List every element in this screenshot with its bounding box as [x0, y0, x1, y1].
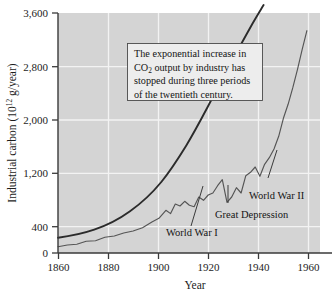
- y-tick-label-400: 400: [32, 221, 49, 233]
- x-axis-title: Year: [184, 279, 205, 291]
- callout-line-4: of the twentieth century.: [134, 89, 233, 100]
- x-tick-label-1880: 1880: [98, 261, 121, 273]
- x-tick-label-1960: 1960: [298, 261, 321, 273]
- chart-figure: 0 400 1,200 2,000 2,800 3,600 1860 1880 …: [0, 0, 335, 293]
- y-axis-ticks: [52, 13, 58, 253]
- x-tick-label-1900: 1900: [148, 261, 171, 273]
- y-axis-title: Industrial carbon (1012 g/year): [5, 63, 19, 202]
- x-tick-label-1860: 1860: [48, 261, 71, 273]
- x-tick-label-1940: 1940: [248, 261, 271, 273]
- svg-text:Industrial carbon (1012 g/year: Industrial carbon (1012 g/year): [5, 63, 19, 202]
- y-tick-label-0: 0: [43, 247, 49, 259]
- y-tick-label-3600: 3,600: [23, 7, 48, 19]
- callout-line-3: stopped during three periods: [134, 75, 250, 86]
- y-tick-label-2000: 2,000: [23, 114, 48, 126]
- callout-line-1: The exponential increase in: [134, 48, 246, 59]
- annotation-world-war-ii: World War II: [249, 190, 305, 201]
- x-axis-ticks: [59, 253, 309, 259]
- y-tick-label-2800: 2,800: [23, 61, 48, 73]
- carbon-emissions-line-chart: 0 400 1,200 2,000 2,800 3,600 1860 1880 …: [0, 0, 335, 293]
- x-tick-label-1920: 1920: [198, 261, 221, 273]
- y-tick-label-1200: 1,200: [23, 167, 48, 179]
- y-axis-title-suffix: g/year): [6, 63, 19, 99]
- annotation-world-war-i: World War I: [166, 227, 218, 238]
- callout-co2-suffix: output by industry has: [152, 62, 245, 73]
- annotation-great-depression: Great Depression: [215, 209, 289, 220]
- y-axis-title-prefix: Industrial carbon (10: [6, 106, 19, 203]
- callout-co2-prefix: CO: [134, 62, 148, 73]
